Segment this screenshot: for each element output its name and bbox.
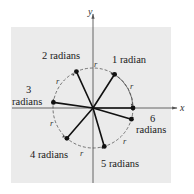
label-6-line2: radians [136,124,166,135]
point-1-radian [112,72,117,77]
point-4-radians [65,136,70,141]
y-axis-label: y [87,6,93,17]
label-4-radians: 4 radians [30,149,68,160]
point-6-radians [129,117,134,122]
point-0-radians [131,106,136,111]
x-axis-label: x [179,102,185,113]
point-5-radians [102,144,107,149]
point-2-radians [74,69,79,74]
label-5-radians: 5 radians [101,158,139,169]
label-2-radians: 2 radians [42,50,80,61]
label-3-line2: radians [12,96,42,107]
label-1-radian: 1 radian [112,54,147,65]
point-3-radians [51,100,56,105]
label-6-line1: 6 [150,113,155,124]
label-3-line1: 3 [26,84,31,95]
radians-diagram: x y r r r r r r [0,0,194,194]
